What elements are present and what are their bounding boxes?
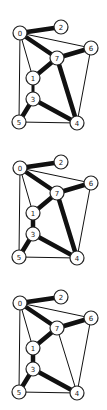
node-3: 3 — [26, 362, 40, 376]
node-label: 3 — [31, 231, 35, 239]
edge-6-4 — [77, 183, 91, 258]
edge-6-4 — [77, 318, 91, 393]
node-6: 6 — [84, 41, 98, 55]
node-label: 4 — [75, 255, 80, 263]
node-label: 1 — [31, 345, 35, 353]
node-2: 2 — [54, 155, 68, 169]
node-3: 3 — [26, 92, 40, 106]
node-7: 7 — [50, 186, 64, 200]
node-1: 1 — [26, 71, 40, 85]
node-label: 5 — [17, 254, 21, 262]
node-label: 0 — [18, 165, 22, 173]
edge-0-5 — [19, 303, 20, 392]
node-0: 0 — [13, 296, 27, 310]
node-label: 6 — [89, 180, 94, 188]
node-label: 6 — [89, 45, 94, 53]
node-1: 1 — [26, 341, 40, 355]
node-2: 2 — [54, 290, 68, 304]
node-4: 4 — [70, 251, 84, 265]
node-label: 2 — [59, 24, 63, 32]
node-5: 5 — [12, 115, 26, 129]
node-label: 2 — [59, 159, 63, 167]
graph-2: 01234567 — [12, 155, 98, 265]
node-4: 4 — [70, 116, 84, 130]
node-label: 5 — [17, 119, 21, 127]
node-6: 6 — [84, 176, 98, 190]
edge-6-4 — [77, 48, 91, 123]
node-0: 0 — [13, 26, 27, 40]
edge-0-5 — [19, 168, 20, 257]
node-label: 4 — [75, 120, 80, 128]
node-label: 7 — [55, 55, 59, 63]
graph-3: 01234567 — [12, 290, 98, 400]
node-label: 1 — [31, 210, 35, 218]
edge-5-4 — [19, 392, 77, 393]
node-5: 5 — [12, 250, 26, 264]
node-label: 3 — [31, 366, 35, 374]
node-6: 6 — [84, 311, 98, 325]
node-7: 7 — [50, 51, 64, 65]
node-label: 5 — [17, 389, 21, 397]
node-label: 1 — [31, 75, 35, 83]
graph-diagrams: 012345670123456701234567 — [0, 0, 107, 410]
edge-5-4 — [19, 122, 77, 123]
graph-1: 01234567 — [12, 20, 98, 130]
node-label: 3 — [31, 96, 35, 104]
node-7: 7 — [50, 321, 64, 335]
node-3: 3 — [26, 227, 40, 241]
node-label: 7 — [55, 190, 59, 198]
node-5: 5 — [12, 385, 26, 399]
node-label: 2 — [59, 294, 63, 302]
node-1: 1 — [26, 206, 40, 220]
node-label: 4 — [75, 390, 80, 398]
edge-5-4 — [19, 257, 77, 258]
node-2: 2 — [54, 20, 68, 34]
node-label: 0 — [18, 30, 22, 38]
node-label: 0 — [18, 300, 22, 308]
edge-0-5 — [19, 33, 20, 122]
node-label: 7 — [55, 325, 59, 333]
node-0: 0 — [13, 161, 27, 175]
node-label: 6 — [89, 315, 94, 323]
node-4: 4 — [70, 386, 84, 400]
